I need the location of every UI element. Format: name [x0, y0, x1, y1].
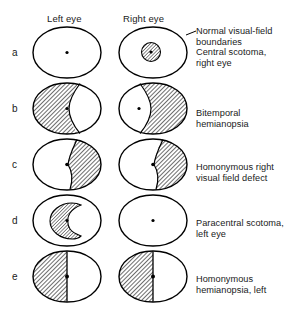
- row-d-left-eye: [33, 195, 101, 246]
- caption-row-d: Paracentral scotoma, left eye: [196, 218, 284, 239]
- fixation-dot: [137, 107, 140, 110]
- defect-shading: [33, 80, 80, 137]
- caption-row-b: Bitemporal hemianopsia: [196, 108, 249, 129]
- fixation-dot: [65, 51, 68, 54]
- row-c-left-eye: [33, 136, 103, 192]
- defect-shading: [154, 136, 189, 192]
- row-c-right-eye: [119, 136, 189, 192]
- fixation-dot: [65, 219, 68, 222]
- fixation-dot: [151, 219, 154, 222]
- fixation-dot: [65, 275, 69, 279]
- caption-row-a: Normal visual-field boundaries Central s…: [196, 26, 273, 68]
- row-label-a: a: [12, 47, 18, 58]
- fixation-dot: [151, 163, 155, 167]
- row-d-right-eye: [119, 195, 187, 246]
- fixation-dot: [65, 107, 68, 110]
- fixation-dot: [65, 163, 69, 167]
- defect-shading: [117, 249, 153, 305]
- caption-row-c: Homonymous right visual field defect: [196, 162, 274, 183]
- row-label-e: e: [12, 271, 18, 282]
- row-e-right-eye: [117, 249, 187, 305]
- defect-shading: [68, 136, 103, 192]
- row-label-c: c: [12, 159, 17, 170]
- column-header-left-eye: Left eye: [47, 13, 82, 24]
- row-label-b: b: [12, 103, 18, 114]
- row-b-left-eye: [33, 80, 101, 137]
- fixation-dot: [149, 50, 152, 53]
- fixation-dot: [151, 275, 155, 279]
- row-b-right-eye: [119, 80, 188, 137]
- row-a-left-eye: [33, 27, 101, 78]
- row-label-d: d: [12, 215, 18, 226]
- row-a-right-eye: [119, 27, 187, 78]
- leader-line-icon: [186, 31, 196, 35]
- caption-row-e: Homonymous hemianopsia, left: [196, 274, 266, 295]
- row-e-left-eye: [31, 249, 101, 305]
- defect-shading: [140, 80, 188, 137]
- column-header-right-eye: Right eye: [123, 13, 164, 24]
- defect-shading: [31, 249, 67, 305]
